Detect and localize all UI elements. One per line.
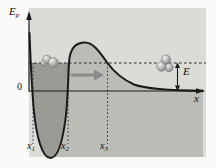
x3-label: x3 bbox=[100, 140, 108, 152]
x1-label: x1 bbox=[27, 140, 35, 152]
origin-label: 0 bbox=[17, 81, 22, 92]
y-axis-label: Ep bbox=[9, 6, 19, 18]
energy-label: E bbox=[183, 66, 190, 77]
x-axis-label: x bbox=[194, 93, 199, 104]
x2-label: x2 bbox=[61, 140, 69, 152]
potential-energy-diagram: Ep 0 x E x1 x2 x3 bbox=[0, 0, 216, 168]
